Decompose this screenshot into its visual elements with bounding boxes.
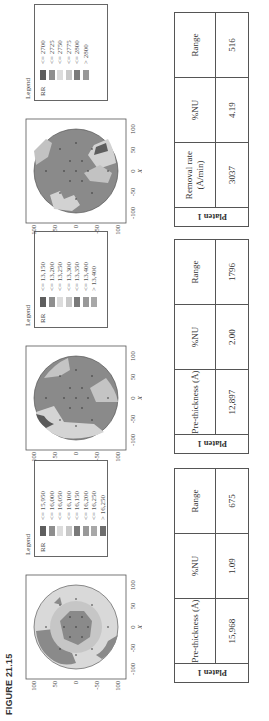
legend-item: > 16,250	[99, 491, 108, 536]
y-tick: 100	[30, 452, 37, 462]
legend-item: <= 16,200	[82, 491, 91, 536]
legend-swatch	[49, 70, 55, 80]
legend-title: Legend	[24, 78, 32, 99]
table-value: 1.09	[216, 534, 249, 599]
table-header: Range	[175, 469, 216, 534]
legend-variable: RR	[39, 314, 47, 323]
stats-table: Platen 1 Pre-thickness (Å) %NU Range 15,…	[174, 468, 249, 683]
legend-item: <= 2750	[56, 40, 65, 80]
table-value: 1796	[216, 240, 249, 305]
legend-swatch	[40, 526, 46, 536]
table-value: 12,897	[216, 370, 249, 435]
legend-item: <= 2725	[48, 40, 57, 80]
table-value: 516	[216, 13, 249, 78]
y-tick: 50	[51, 225, 58, 232]
legend-swatch	[40, 297, 46, 307]
legend-item: > 2800	[82, 40, 91, 80]
y-tick: 100	[30, 225, 37, 235]
legend: RR <= 2700 <= 2725 <= 2750 <= 2775 <= 28…	[34, 4, 108, 101]
legend-title: Legend	[24, 534, 32, 555]
x-tick: 0	[129, 169, 136, 172]
legend-item: <= 16,150	[73, 491, 82, 536]
legend: RR <= 13,150 <= 13,200 <= 13,250 <= 13,3…	[34, 231, 108, 328]
table-header: %NU	[175, 305, 216, 370]
legend-swatch	[83, 297, 89, 307]
legend-item: <= 13,200	[48, 262, 57, 307]
legend-swatch	[83, 526, 89, 536]
y-tick: 0	[72, 225, 79, 228]
y-tick: -100	[114, 225, 121, 235]
legend-item: <= 13,400	[82, 262, 91, 307]
legend-swatch	[74, 297, 80, 307]
legend-item: <= 13,250	[56, 262, 65, 307]
legend-items: <= 15,950 <= 16,000 <= 16,050 <= 16,100 …	[39, 491, 107, 536]
rotated-figure-page: FIGURE 21.15 -100	[0, 0, 269, 721]
legend-item: <= 16,100	[65, 491, 74, 536]
legend-item: <= 13,150	[39, 262, 48, 307]
table-header: Removal rate (Å/min)	[175, 143, 216, 208]
legend-swatch	[66, 297, 72, 307]
x-tick: 0	[129, 625, 136, 628]
table-value: 3037	[216, 143, 249, 208]
y-tick: -50	[93, 681, 100, 690]
x-tick: -50	[129, 188, 136, 197]
legend-swatch	[57, 297, 63, 307]
table-header: Pre-thickness (Å)	[175, 599, 216, 664]
legend: RR <= 15,950 <= 16,000 <= 16,050 <= 16,1…	[34, 460, 108, 557]
panel-pre-thickness-12897: -100 -50 0 50 100 X 100 50 0 -50 -100 Le…	[0, 228, 269, 468]
table-value: 4.19	[216, 78, 249, 143]
legend-item: <= 16,000	[48, 491, 57, 536]
legend-items: <= 13,150 <= 13,200 <= 13,250 <= 13,300 …	[39, 262, 99, 307]
legend-variable: RR	[39, 87, 47, 96]
x-tick: -100	[129, 207, 136, 219]
legend-item: <= 13,300	[65, 262, 74, 307]
x-tick: 100	[129, 124, 136, 134]
x-tick: -100	[129, 663, 136, 675]
legend-swatch	[74, 70, 80, 80]
y-tick: -50	[93, 452, 100, 461]
x-tick: -50	[129, 644, 136, 653]
y-tick: -100	[114, 452, 121, 462]
table-value: 2.00	[216, 305, 249, 370]
x-axis-label: X	[136, 168, 142, 174]
platen-label-cell: Platen 1	[175, 664, 249, 683]
table-value: 15,968	[216, 599, 249, 664]
table-value: 675	[216, 469, 249, 534]
legend-item: <= 16,250	[90, 491, 99, 536]
y-tick: -100	[114, 681, 121, 691]
legend-swatch	[66, 70, 72, 80]
table-header: %NU	[175, 78, 216, 143]
platen-label-cell: Platen 1	[175, 208, 249, 227]
legend-items: <= 2700 <= 2725 <= 2750 <= 2775 <= 2800 …	[39, 40, 90, 80]
x-tick: 100	[129, 351, 136, 361]
y-tick: -50	[93, 225, 100, 234]
legend-swatch	[57, 70, 63, 80]
legend-item: > 13,400	[90, 262, 99, 307]
legend-item: <= 13,350	[73, 262, 82, 307]
legend-title: Legend	[24, 305, 32, 326]
x-tick: 0	[129, 396, 136, 399]
y-tick: 50	[51, 452, 58, 459]
table-header: %NU	[175, 534, 216, 599]
legend-swatch	[66, 526, 72, 536]
x-tick: -50	[129, 415, 136, 424]
legend-swatch	[100, 526, 106, 536]
x-axis-label: X	[136, 395, 142, 401]
x-tick: 100	[129, 580, 136, 590]
x-tick: 50	[129, 603, 136, 610]
legend-item: <= 16,050	[56, 491, 65, 536]
x-tick: 50	[129, 147, 136, 154]
legend-item: <= 2800	[73, 40, 82, 80]
stats-table: Platen 1 Removal rate (Å/min) %NU Range …	[174, 12, 249, 227]
panel-removal-rate-3037: -100 -50 0 50 100 X 100 50 0 -50 -100 Le…	[0, 1, 269, 241]
y-tick: 0	[72, 452, 79, 455]
table-header: Range	[175, 240, 216, 305]
legend-swatch	[49, 297, 55, 307]
x-tick: 50	[129, 374, 136, 381]
y-tick: 0	[72, 681, 79, 684]
table-header: Pre-thickness (Å)	[175, 370, 216, 435]
legend-item: <= 2700	[39, 40, 48, 80]
legend-swatch	[57, 526, 63, 536]
panel-pre-thickness-15968: -100 -50 0 50 100 X 100 50 0 -50 -100 Le…	[0, 457, 269, 697]
wafer-contour-plot: -100 -50 0 50 100 X 100 50 0 -50 -100	[24, 571, 142, 691]
